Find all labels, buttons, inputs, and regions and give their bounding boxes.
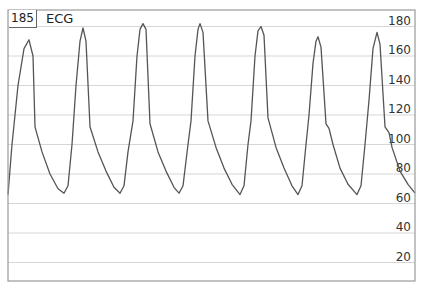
- y-tick-label: 120: [388, 102, 411, 116]
- gridlines: [8, 27, 415, 263]
- y-tick-label: 160: [388, 43, 411, 57]
- y-tick-label: 20: [396, 250, 411, 264]
- signal-label: ECG: [46, 10, 73, 28]
- y-tick-label: 60: [396, 191, 411, 205]
- ecg-chart: 20406080100120140160180: [0, 0, 421, 289]
- y-tick-label: 40: [396, 220, 411, 234]
- heart-rate-value: 185: [9, 10, 37, 28]
- y-axis-tick-labels: 20406080100120140160180: [388, 14, 411, 264]
- ecg-trace: [8, 24, 415, 195]
- y-tick-label: 180: [388, 14, 411, 28]
- chart-frame: [8, 10, 415, 281]
- y-tick-label: 140: [388, 73, 411, 87]
- y-tick-label: 80: [396, 161, 411, 175]
